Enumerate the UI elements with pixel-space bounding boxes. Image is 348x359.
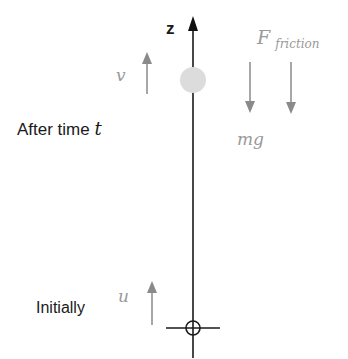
velocity-v: v [116, 52, 152, 94]
velocity-v-arrowhead-icon [142, 52, 152, 64]
initially-label: Initially [36, 299, 85, 316]
after-time-label: After time t [17, 118, 102, 139]
friction-label: F friction [256, 26, 320, 51]
weight-label: mg [237, 129, 264, 149]
friction-force: F friction [256, 26, 320, 114]
friction-symbol: F [256, 26, 271, 48]
velocity-u-arrowhead-icon [147, 281, 157, 293]
ball [180, 67, 206, 93]
weight-force: mg [237, 62, 264, 149]
initial-state: Initially u [36, 281, 157, 325]
after-time-text: After time [17, 120, 94, 139]
time-symbol: t [94, 118, 102, 139]
z-axis-arrowhead-icon [188, 16, 198, 31]
friction-subscript: friction [274, 37, 319, 51]
velocity-u-label: u [118, 286, 129, 306]
free-body-diagram: z v After time t mg F friction Initially… [0, 0, 348, 359]
velocity-v-label: v [116, 65, 126, 85]
weight-arrowhead-icon [245, 101, 255, 113]
friction-arrowhead-icon [286, 102, 296, 114]
z-axis-label: z [166, 19, 175, 38]
